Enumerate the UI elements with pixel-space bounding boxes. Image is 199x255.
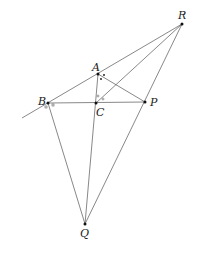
- label-R: R: [177, 9, 186, 22]
- point-R: [181, 23, 184, 26]
- geometry-diagram: R A B C P Q: [0, 0, 199, 255]
- point-Q: [84, 223, 87, 226]
- angle-mark-C1: [97, 95, 99, 97]
- angle-mark-A2: [100, 78, 102, 80]
- line-RQ: [85, 24, 182, 224]
- label-B: B: [37, 95, 46, 108]
- angle-mark-A1: [103, 74, 105, 76]
- point-C: [95, 102, 98, 105]
- angle-mark-C2: [102, 98, 104, 100]
- line-BQ: [48, 103, 85, 224]
- label-A: A: [91, 61, 100, 74]
- line-RC: [96, 24, 182, 103]
- point-P: [144, 101, 147, 104]
- label-Q: Q: [80, 227, 89, 240]
- line-AP: [98, 74, 145, 102]
- angle-mark-B2: [52, 104, 54, 106]
- point-B: [47, 102, 50, 105]
- label-P: P: [149, 96, 158, 109]
- label-C: C: [96, 106, 105, 119]
